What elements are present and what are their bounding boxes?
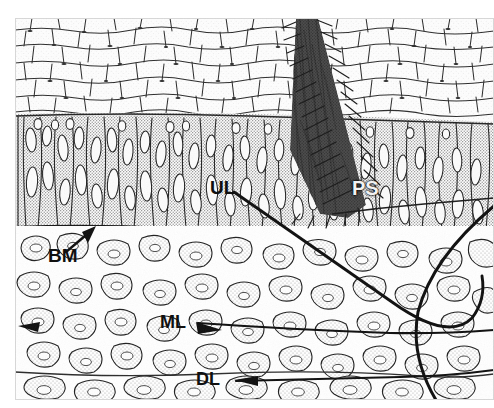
label-ps: PS (352, 178, 379, 198)
label-ml: ML (160, 313, 186, 331)
micrograph-drawing (0, 0, 494, 408)
histology-figure: UL PS BM ML DL (0, 0, 494, 408)
grain-overlay (15, 18, 494, 400)
label-bm: BM (48, 246, 78, 265)
label-ul: UL (210, 178, 235, 197)
plate-content (15, 16, 494, 402)
label-dl: DL (196, 370, 220, 388)
